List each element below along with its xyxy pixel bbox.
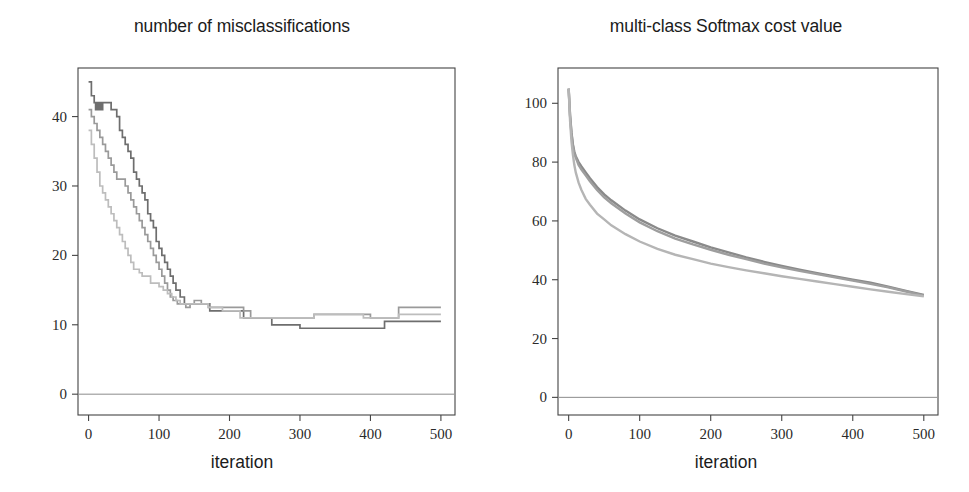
y-tick-label: 0 bbox=[540, 389, 548, 405]
y-tick-label: 100 bbox=[525, 95, 548, 111]
panel-softmax-cost: multi-class Softmax cost value 020406080… bbox=[484, 0, 968, 492]
x-tick-label: 0 bbox=[565, 426, 573, 442]
xaxis-label-left: iteration bbox=[0, 452, 484, 473]
series-line-run-2 bbox=[89, 110, 441, 318]
x-tick-label: 500 bbox=[913, 426, 936, 442]
plot-area-left: 0102030400100200300400500 bbox=[0, 0, 484, 492]
x-tick-label: 100 bbox=[148, 426, 171, 442]
panel-misclassifications: number of misclassifications 01020304001… bbox=[0, 0, 484, 492]
x-tick-label: 300 bbox=[770, 426, 793, 442]
plot-area-right: 0204060801000100200300400500 bbox=[484, 0, 968, 492]
x-tick-label: 400 bbox=[359, 426, 382, 442]
x-tick-label: 200 bbox=[699, 426, 722, 442]
x-tick-label: 500 bbox=[430, 426, 453, 442]
x-tick-label: 0 bbox=[85, 426, 93, 442]
y-tick-label: 40 bbox=[532, 272, 547, 288]
x-tick-label: 400 bbox=[842, 426, 865, 442]
series-line-run-2 bbox=[569, 89, 924, 296]
y-tick-label: 40 bbox=[52, 109, 67, 125]
y-tick-label: 20 bbox=[52, 247, 67, 263]
series-line-run-1 bbox=[569, 89, 924, 295]
plot-frame bbox=[78, 68, 455, 415]
y-tick-label: 30 bbox=[52, 178, 67, 194]
y-tick-label: 80 bbox=[532, 154, 547, 170]
x-tick-label: 300 bbox=[289, 426, 312, 442]
y-tick-label: 0 bbox=[60, 386, 68, 402]
xaxis-label-right: iteration bbox=[484, 452, 968, 473]
y-tick-label: 60 bbox=[532, 213, 547, 229]
series-line-run-3 bbox=[569, 89, 924, 297]
y-tick-label: 10 bbox=[52, 317, 67, 333]
x-tick-label: 100 bbox=[628, 426, 651, 442]
x-tick-label: 200 bbox=[218, 426, 241, 442]
figure-container: number of misclassifications 01020304001… bbox=[0, 0, 969, 492]
y-tick-label: 20 bbox=[532, 331, 547, 347]
plot-frame bbox=[558, 68, 938, 415]
series-line-run-1 bbox=[89, 82, 441, 328]
